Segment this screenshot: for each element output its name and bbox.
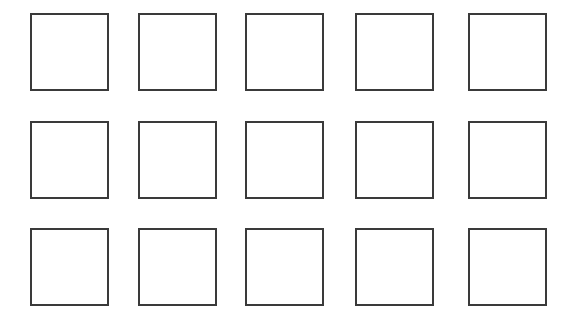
square-r2-c5 xyxy=(468,121,547,199)
square-r1-c2 xyxy=(138,13,217,91)
square-r3-c1 xyxy=(30,228,109,306)
square-r1-c4 xyxy=(355,13,434,91)
square-r1-c1 xyxy=(30,13,109,91)
square-r2-c1 xyxy=(30,121,109,199)
square-r2-c2 xyxy=(138,121,217,199)
square-r3-c5 xyxy=(468,228,547,306)
square-r3-c2 xyxy=(138,228,217,306)
square-r1-c3 xyxy=(245,13,324,91)
square-r2-c3 xyxy=(245,121,324,199)
square-r2-c4 xyxy=(355,121,434,199)
square-r1-c5 xyxy=(468,13,547,91)
square-r3-c4 xyxy=(355,228,434,306)
square-r3-c3 xyxy=(245,228,324,306)
